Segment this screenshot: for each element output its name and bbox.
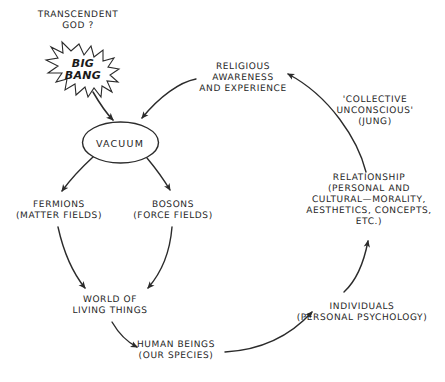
node-relationship: RELATIONSHIP (PERSONAL AND CULTURAL—MORA… <box>306 173 432 228</box>
node-vacuum: VACUUM <box>96 138 144 149</box>
edge-world-to-human <box>112 322 137 347</box>
edge-vacuum-to-bosons <box>147 158 170 190</box>
node-religious-awareness: RELIGIOUS AWARENESS AND EXPERIENCE <box>199 62 286 95</box>
node-world-of-living-things: WORLD OF LIVING THINGS <box>72 295 147 317</box>
edge-bigbang-to-vacuum <box>93 92 113 120</box>
node-big-bang: BIG BANG <box>65 58 101 82</box>
diagram-canvas: TRANSCENDENT GOD ? BIG BANG VACUUM FERMI… <box>0 0 445 382</box>
node-human-beings: HUMAN BEINGS (OUR SPECIES) <box>137 340 215 362</box>
edge-bosons-to-world <box>148 227 172 288</box>
edge-religious-to-vacuum <box>142 79 196 118</box>
edge-fermions-to-world <box>58 227 85 288</box>
node-bosons: BOSONS (FORCE FIELDS) <box>133 200 213 222</box>
node-fermions: FERMIONS (MATTER FIELDS) <box>16 200 102 222</box>
edge-individuals-to-relationship <box>344 241 368 292</box>
node-individuals: INDIVIDUALS (PERSONAL PSYCHOLOGY) <box>297 302 428 324</box>
node-collective-unconscious: 'COLLECTIVE UNCONSCIOUS' (JUNG) <box>336 95 413 128</box>
edge-vacuum-to-fermions <box>62 157 93 191</box>
node-transcendent-god: TRANSCENDENT GOD ? <box>38 10 119 32</box>
